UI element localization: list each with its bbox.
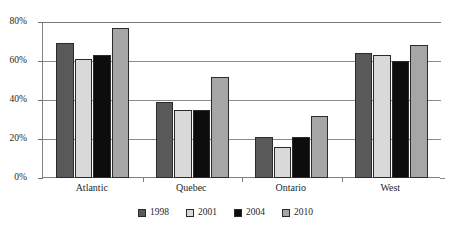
x-axis-label-ontario: Ontario bbox=[241, 182, 341, 193]
bar-atlantic-2004 bbox=[93, 55, 111, 178]
bar-quebec-1998 bbox=[156, 102, 174, 178]
bar-atlantic-1998 bbox=[56, 43, 74, 178]
bar-group bbox=[43, 22, 143, 178]
x-axis-labels: AtlanticQuebecOntarioWest bbox=[42, 182, 440, 193]
bar-groups bbox=[43, 22, 441, 178]
bar-quebec-2010 bbox=[211, 77, 229, 178]
legend-item-2001[interactable]: 2001 bbox=[186, 208, 217, 218]
bar-cluster bbox=[56, 22, 129, 178]
grouped-bar-chart: 0%20%40%60%80% AtlanticQuebecOntarioWest… bbox=[0, 0, 451, 237]
bar-group bbox=[242, 22, 342, 178]
bar-atlantic-2001 bbox=[75, 59, 93, 178]
bar-ontario-1998 bbox=[255, 137, 273, 178]
bar-cluster bbox=[355, 22, 428, 178]
bar-quebec-2001 bbox=[174, 110, 192, 178]
right-axis-tick bbox=[440, 178, 445, 179]
x-axis-label-atlantic: Atlantic bbox=[42, 182, 142, 193]
chart-legend: 1998200120042010 bbox=[0, 208, 451, 218]
y-axis-label: 80% bbox=[0, 17, 27, 27]
y-axis-label: 40% bbox=[0, 95, 27, 105]
legend-item-1998[interactable]: 1998 bbox=[138, 208, 169, 218]
bar-west-1998 bbox=[355, 53, 373, 178]
bar-ontario-2001 bbox=[274, 147, 292, 178]
bar-ontario-2004 bbox=[292, 137, 310, 178]
y-axis-tick bbox=[38, 178, 43, 179]
legend-swatch-icon bbox=[234, 209, 242, 217]
bar-atlantic-2010 bbox=[112, 28, 130, 178]
bar-cluster bbox=[156, 22, 229, 178]
bar-west-2010 bbox=[410, 45, 428, 178]
y-axis-label: 60% bbox=[0, 56, 27, 66]
bar-west-2004 bbox=[392, 61, 410, 178]
legend-item-2010[interactable]: 2010 bbox=[282, 208, 313, 218]
y-axis-label: 20% bbox=[0, 134, 27, 144]
x-axis-label-west: West bbox=[341, 182, 441, 193]
legend-swatch-icon bbox=[282, 209, 290, 217]
bar-group bbox=[143, 22, 243, 178]
legend-label: 1998 bbox=[150, 208, 169, 218]
bar-cluster bbox=[255, 22, 328, 178]
bar-ontario-2010 bbox=[311, 116, 329, 178]
legend-label: 2004 bbox=[246, 208, 265, 218]
legend-label: 2001 bbox=[198, 208, 217, 218]
legend-label: 2010 bbox=[294, 208, 313, 218]
bar-west-2001 bbox=[373, 55, 391, 178]
legend-swatch-icon bbox=[138, 209, 146, 217]
bar-quebec-2004 bbox=[193, 110, 211, 178]
x-axis-label-quebec: Quebec bbox=[142, 182, 242, 193]
legend-item-2004[interactable]: 2004 bbox=[234, 208, 265, 218]
bar-group bbox=[342, 22, 442, 178]
y-axis-label: 0% bbox=[0, 173, 27, 183]
plot-area: 0%20%40%60%80% bbox=[42, 22, 440, 178]
legend-swatch-icon bbox=[186, 209, 194, 217]
